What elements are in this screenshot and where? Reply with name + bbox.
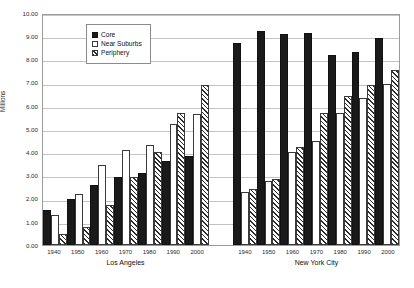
bar-core xyxy=(114,177,122,245)
x-axis-tick-label: 1950 xyxy=(257,246,281,260)
y-axis-tick-label: 0.00 xyxy=(0,243,38,249)
bar-group xyxy=(162,15,186,245)
bar-group xyxy=(328,15,352,245)
bar-periphery xyxy=(130,177,138,245)
bar-periphery xyxy=(59,234,67,245)
bar-near-suburbs xyxy=(98,165,106,245)
bar-core xyxy=(352,52,360,245)
legend-label-core: Core xyxy=(101,32,115,39)
x-axis-tick-label: 1970 xyxy=(114,246,138,260)
group-title: Los Angeles xyxy=(42,259,209,266)
bar-near-suburbs xyxy=(146,145,154,245)
bar-near-suburbs xyxy=(359,98,367,245)
y-axis-tick-label: 10.00 xyxy=(0,11,38,17)
bar-periphery xyxy=(83,227,91,245)
x-axis-tick-label: 1940 xyxy=(42,246,66,260)
bar-group-gap xyxy=(209,15,233,245)
y-axis-tick-label: 9.00 xyxy=(0,34,38,40)
bar-group xyxy=(233,15,257,245)
bar-periphery xyxy=(201,85,209,245)
bar-core xyxy=(304,33,312,245)
bar-periphery xyxy=(367,85,375,245)
bar-periphery xyxy=(177,113,185,245)
bar-periphery xyxy=(391,70,399,245)
bar-core xyxy=(280,34,288,245)
bar-near-suburbs xyxy=(241,192,249,245)
bar-near-suburbs xyxy=(193,114,201,245)
y-axis-tick-label: 1.00 xyxy=(0,220,38,226)
bar-periphery xyxy=(154,152,162,245)
x-axis-tick-label: 1960 xyxy=(90,246,114,260)
legend-label-periphery: Periphery xyxy=(101,50,129,57)
bar-group xyxy=(280,15,304,245)
legend: Core Near Suburbs Periphery xyxy=(86,24,151,64)
bar-core xyxy=(257,31,265,245)
x-axis-tick-label: 1980 xyxy=(137,246,161,260)
y-axis-tick-label: 5.00 xyxy=(0,127,38,133)
bar-group xyxy=(304,15,328,245)
bar-near-suburbs xyxy=(336,113,344,245)
bar-core xyxy=(90,185,98,245)
x-axis-tick-label: 1990 xyxy=(352,246,376,260)
bar-near-suburbs xyxy=(122,150,130,245)
x-axis-tick-label: 1980 xyxy=(328,246,352,260)
bar-near-suburbs xyxy=(170,124,178,245)
bar-near-suburbs xyxy=(383,84,391,245)
x-axis-tick-label: 1990 xyxy=(161,246,185,260)
x-axis-tick-labels: 1940195019601970198019902000194019501960… xyxy=(42,246,400,260)
bar-core xyxy=(67,199,75,245)
bar-near-suburbs xyxy=(312,141,320,245)
x-axis-group-titles: Los AngelesNew York City xyxy=(42,259,400,273)
bar-chart: Millions 0.001.002.003.004.005.006.007.0… xyxy=(0,0,414,288)
bar-periphery xyxy=(344,96,352,245)
bar-near-suburbs xyxy=(51,215,59,245)
bar-near-suburbs xyxy=(75,194,83,245)
group-title: New York City xyxy=(233,259,400,266)
bar-periphery xyxy=(320,113,328,245)
bar-periphery xyxy=(249,189,257,245)
bar-core xyxy=(328,55,336,245)
legend-item-periphery: Periphery xyxy=(92,50,142,57)
bar-group xyxy=(352,15,376,245)
x-axis-tick-label: 1960 xyxy=(281,246,305,260)
x-axis-tick-label: 2000 xyxy=(376,246,400,260)
bar-core xyxy=(162,161,170,245)
x-axis-tick-label: 1970 xyxy=(304,246,328,260)
legend-swatch-core-icon xyxy=(92,32,98,38)
legend-swatch-near-suburbs-icon xyxy=(92,41,98,47)
bar-core xyxy=(185,156,193,245)
x-axis-tick-label: 1940 xyxy=(233,246,257,260)
y-axis-tick-label: 7.00 xyxy=(0,80,38,86)
x-axis-tick-label: 1950 xyxy=(66,246,90,260)
legend-item-core: Core xyxy=(92,32,142,39)
y-axis-tick-label: 4.00 xyxy=(0,150,38,156)
bar-periphery xyxy=(106,205,114,245)
bar-group xyxy=(43,15,67,245)
bar-near-suburbs xyxy=(288,152,296,245)
bar-periphery xyxy=(272,179,280,245)
y-axis-tick-label: 8.00 xyxy=(0,57,38,63)
bar-group xyxy=(375,15,399,245)
legend-label-near-suburbs: Near Suburbs xyxy=(101,41,142,48)
bar-near-suburbs xyxy=(265,181,273,245)
bar-group xyxy=(185,15,209,245)
y-axis-tick-label: 2.00 xyxy=(0,196,38,202)
bar-periphery xyxy=(296,147,304,245)
y-axis-tick-label: 6.00 xyxy=(0,104,38,110)
bar-core xyxy=(375,38,383,245)
bar-group xyxy=(257,15,281,245)
legend-swatch-periphery-icon xyxy=(92,50,98,56)
bar-core xyxy=(138,173,146,245)
bar-core xyxy=(43,210,51,245)
bar-core xyxy=(233,43,241,245)
legend-item-near-suburbs: Near Suburbs xyxy=(92,41,142,48)
y-axis-tick-label: 3.00 xyxy=(0,173,38,179)
x-axis-tick-label: 2000 xyxy=(185,246,209,260)
